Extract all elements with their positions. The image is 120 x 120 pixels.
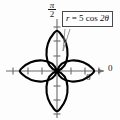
- equation-coefficient: 5: [79, 13, 84, 23]
- equation-function: cos: [86, 13, 98, 23]
- axis-label-zero: 0: [108, 64, 113, 73]
- axis-label-pi-over-two: π 2: [44, 1, 60, 19]
- x-tick-label-6: 6: [86, 73, 91, 82]
- polar-rose-curve-figure: π 2 0 6 r = 5 cos 2θ: [0, 0, 120, 120]
- equation-argument: 2θ: [100, 13, 109, 23]
- pi-denominator: 2: [44, 10, 60, 19]
- equation-callout-box: r = 5 cos 2θ: [62, 11, 113, 27]
- equation-equals: =: [72, 13, 77, 23]
- pi-numerator: π: [44, 1, 60, 9]
- equation-variable-r: r: [66, 13, 70, 23]
